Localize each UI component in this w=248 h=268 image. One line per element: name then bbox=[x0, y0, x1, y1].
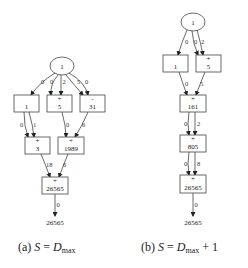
caption-b-prefix: (b) bbox=[141, 240, 155, 254]
edge-label-b-r2-r3-a: 0 bbox=[184, 120, 187, 127]
edge-label-a-r2left-r3: 18 bbox=[46, 161, 53, 168]
node-b-r1-right-value: 5 bbox=[207, 63, 211, 71]
caption-b-rhs-sub: max bbox=[185, 246, 199, 255]
edge-b-r2-r3-a bbox=[188, 112, 189, 135]
caption-b-eq: = bbox=[167, 240, 174, 254]
caption-b: (b) S = Dmax + 1 bbox=[141, 240, 218, 255]
node-a-input-value: 1 bbox=[60, 63, 64, 71]
caption-a-rhs-var: D bbox=[53, 240, 62, 254]
edge-label-b-r1right-r2: 5 bbox=[200, 80, 203, 87]
node-a-r3-value: 26565 bbox=[46, 185, 64, 193]
edge-label-a-r1right-r2right: 6 bbox=[82, 121, 86, 128]
edge-label-b-r2-r3-b: 2 bbox=[197, 120, 200, 127]
node-b-r1-right-op: + bbox=[207, 55, 211, 63]
node-b-r3-value: 805 bbox=[188, 143, 199, 151]
caption-b-rhs-suffix: + 1 bbox=[202, 240, 218, 254]
edge-label-a-r1left-r2left-b: 1 bbox=[33, 121, 36, 128]
node-a-r1-mid-value: 5 bbox=[58, 103, 62, 111]
node-b-r2-value: 161 bbox=[188, 103, 199, 111]
node-b-r2-op: + bbox=[191, 95, 195, 103]
caption-b-var: S bbox=[158, 240, 164, 254]
caption-a-prefix: (a) bbox=[18, 240, 31, 254]
edge-label-a-in-r1mid-a: 0 bbox=[50, 78, 53, 85]
edge-label-a-r1mid-r2right: 0 bbox=[66, 121, 69, 128]
node-b-r4-op: + bbox=[191, 175, 195, 183]
edge-label-b-in-r1left: 0 bbox=[185, 38, 188, 45]
caption-a-var: S bbox=[34, 240, 40, 254]
edge-b-r3-r4-a bbox=[188, 152, 189, 175]
edge-label-a-in-r1mid-b: 2 bbox=[63, 78, 66, 85]
edge-label-b-in-r1right-b: 2 bbox=[201, 38, 204, 45]
node-a-output-value: 26565 bbox=[46, 219, 64, 227]
edge-label-a-r1left-r2left-a: 0 bbox=[20, 121, 23, 128]
edge-label-b-r1left-r2: 0 bbox=[185, 80, 188, 87]
node-a-r2-right-op: + bbox=[69, 137, 73, 145]
edge-label-a-in-r1left: 0 bbox=[41, 78, 44, 85]
caption-a-eq: = bbox=[43, 240, 50, 254]
node-b-r3-op: + bbox=[191, 135, 195, 143]
node-a-r1-right-value: 31 bbox=[89, 103, 97, 111]
figure-canvas: 1 1 + 5 - 31 + 3 + 1989 + 26565 26565 0 … bbox=[0, 0, 248, 268]
node-a-r1-mid-op: + bbox=[58, 95, 62, 103]
node-b-output-value: 26565 bbox=[184, 219, 202, 227]
edge-label-b-r3-r4-a: 0 bbox=[184, 160, 187, 167]
edge-label-a-in-r1right-a: 5 bbox=[77, 78, 80, 85]
edge-label-b-r3-r4-b: 8 bbox=[197, 160, 200, 167]
node-a-r3-op: + bbox=[53, 177, 57, 185]
edge-label-b-r4-out: 0 bbox=[195, 201, 198, 208]
edge-label-a-r2right-r3: 6 bbox=[63, 161, 67, 168]
caption-a-rhs-sub: max bbox=[62, 246, 76, 255]
edge-a-in-r1right-a bbox=[66, 75, 83, 95]
edge-label-a-r3-out: 0 bbox=[57, 201, 60, 208]
edge-label-a-in-r1right-b: 0 bbox=[85, 78, 88, 85]
node-a-r2-left-value: 3 bbox=[36, 145, 40, 153]
edge-label-b-in-r1right-a: 0 bbox=[194, 38, 197, 45]
edge-a-r1left-r2left-a bbox=[24, 112, 28, 137]
caption-a: (a) S = Dmax bbox=[18, 240, 76, 255]
node-a-r2-left-op: + bbox=[36, 137, 40, 145]
node-a-r1-left-value: 1 bbox=[25, 103, 29, 111]
node-b-r1-left-value: 1 bbox=[174, 63, 178, 71]
node-b-input-value: 1 bbox=[191, 19, 195, 27]
node-a-r2-right-value: 1989 bbox=[64, 145, 79, 153]
node-b-r4-value: 26565 bbox=[184, 184, 202, 192]
